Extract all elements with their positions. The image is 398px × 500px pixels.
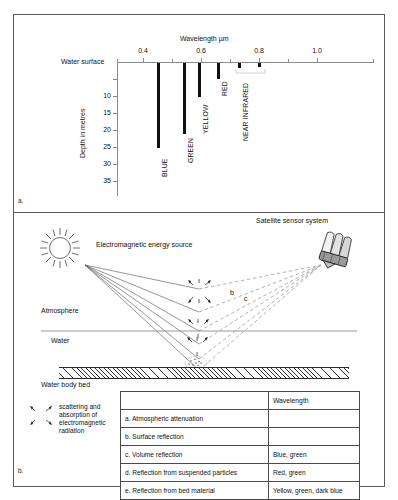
legend-scattering-icon (27, 403, 55, 427)
y-tick-label-10: 10 (87, 92, 111, 99)
x-tick-label-1: 0.4 (132, 47, 154, 54)
water-body-bed-hatch (59, 367, 349, 379)
wavelength-table: Wavelength a. Atmospheric attenuation b.… (120, 391, 360, 500)
table-cell-process-b: b. Surface reflection (121, 428, 269, 446)
panel-a-depth-chart: a. Wavelength µm Water surface 0.4 0.6 0… (13, 14, 385, 212)
band-label-yellow: YELLOW (202, 104, 209, 134)
table-row: b. Surface reflection (121, 428, 360, 446)
water-label: Water (51, 337, 69, 344)
figure-root: a. Wavelength µm Water surface 0.4 0.6 0… (0, 0, 398, 500)
x-tick-1.0 (317, 58, 318, 63)
ray-label-b: b (230, 289, 234, 296)
x-tick-label-2: 0.6 (190, 47, 212, 54)
band-label-blue: BLUE (161, 158, 168, 177)
near-infrared-bracket (235, 68, 267, 76)
y-axis-title: Depth in metres (79, 109, 86, 158)
bar-green (183, 63, 186, 134)
table-cell-process-c: c. Volume reflection (121, 446, 269, 464)
y-tick-label-25: 25 (87, 143, 111, 150)
x-tick-minor-0.5 (172, 59, 173, 63)
ray-label-c: c (244, 295, 248, 302)
table-row: c. Volume reflection Blue, green (121, 446, 360, 464)
table-cell-wavelength-b (268, 428, 359, 446)
y-tick-30 (113, 164, 118, 165)
x-tick-minor-0.7 (230, 59, 231, 63)
water-surface-label: Water surface (61, 58, 104, 65)
y-tick-10 (113, 96, 118, 97)
table-cell-wavelength-e: Yellow, green, dark blue (268, 482, 359, 500)
y-tick-35 (113, 181, 118, 182)
scattering-symbol-atmosphere (185, 277, 215, 307)
table-cell-wavelength-c: Blue, green (268, 446, 359, 464)
bar-blue (157, 63, 160, 148)
bar-red (217, 63, 220, 79)
y-tick-5 (113, 79, 118, 80)
table-header-process (121, 392, 269, 410)
y-tick-label-35: 35 (87, 177, 111, 184)
x-tick-label-4: 1.0 (306, 47, 328, 54)
table-row: a. Atmospheric attenuation (121, 410, 360, 428)
table-header-wavelength: Wavelength (268, 392, 359, 410)
table-cell-process-d: d. Reflection from suspended particles (121, 464, 269, 482)
chart-title-wavelength: Wavelength µm (180, 35, 229, 42)
x-tick-0.4 (143, 58, 144, 63)
atmosphere-label: Atmosphere (41, 307, 79, 314)
x-tick-minor-0.3 (117, 59, 118, 63)
band-label-red: RED (221, 81, 228, 96)
bar-yellow (198, 63, 201, 97)
water-body-bed-label: Water body bed (41, 381, 90, 388)
legend-caption: scattering and absorption of electromagn… (59, 403, 117, 435)
band-label-green: GREEN (187, 138, 194, 163)
table-cell-process-e: e. Reflection from bed material (121, 482, 269, 500)
panel-a-tag: a. (18, 197, 23, 204)
y-axis-depth (117, 62, 118, 196)
y-tick-label-30: 30 (87, 160, 111, 167)
table-header-row: Wavelength (121, 392, 360, 410)
y-tick-label-15: 15 (87, 109, 111, 116)
table-cell-process-a: a. Atmospheric attenuation (121, 410, 269, 428)
bar-near-infrared-2 (258, 63, 261, 67)
table-row: e. Reflection from bed material Yellow, … (121, 482, 360, 500)
band-label-near-infrared: NEAR INFRARED (242, 83, 249, 141)
y-tick-25 (113, 147, 118, 148)
y-tick-label-20: 20 (87, 126, 111, 133)
table-row: d. Reflection from suspended particles R… (121, 464, 360, 482)
x-tick-0.6 (201, 58, 202, 63)
x-tick-minor-0.9 (288, 59, 289, 63)
panel-b-radiative-transfer-diagram: b. Electromagn (13, 213, 385, 487)
y-tick-20 (113, 130, 118, 131)
table-cell-wavelength-d: Red, green (268, 464, 359, 482)
x-tick-minor-end (373, 59, 374, 63)
x-axis-water-surface (117, 62, 374, 63)
table-cell-wavelength-a (268, 410, 359, 428)
y-tick-15 (113, 113, 118, 114)
x-tick-label-3: 0.8 (248, 47, 270, 54)
